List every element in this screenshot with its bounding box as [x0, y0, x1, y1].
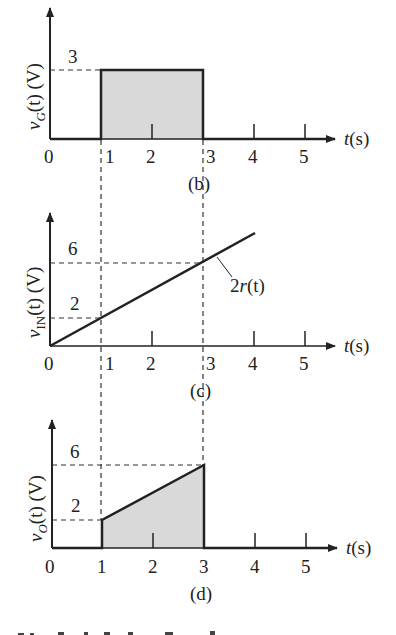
x-tick-3: 3: [206, 353, 216, 374]
panel-d: 6 2 0 1 2 3 4 5 t(s) (d) vO(t) (V): [25, 420, 371, 605]
ramp-annotation: 2r(t): [230, 275, 265, 297]
x-tick-0: 0: [45, 556, 55, 577]
x-axis-label: t(s): [344, 335, 369, 357]
x-tick-4: 4: [250, 556, 260, 577]
y-tick-2: 2: [70, 293, 80, 314]
x-tick-3: 3: [199, 556, 209, 577]
annotation-leader: [217, 257, 232, 277]
panel-caption: (d): [190, 583, 212, 605]
x-tick-2: 2: [146, 146, 156, 167]
panel-b: 3 0 1 2 3 4 5 t(s) (b) vG(t) (V): [23, 8, 369, 195]
y-tick-2: 2: [71, 495, 81, 516]
x-tick-0: 0: [44, 353, 54, 374]
y-tick-3: 3: [68, 46, 78, 67]
x-axis-label: t(s): [344, 128, 369, 150]
x-tick-4: 4: [248, 353, 258, 374]
x-tick-2: 2: [148, 556, 158, 577]
panel-caption: (b): [188, 173, 210, 195]
x-tick-1: 1: [105, 353, 115, 374]
figure: 3 0 1 2 3 4 5 t(s) (b) vG(t) (V) 6 2 2r(…: [0, 0, 396, 635]
x-tick-4: 4: [248, 146, 258, 167]
panel-caption: (c): [190, 380, 211, 402]
x-tick-5: 5: [299, 353, 309, 374]
x-axis-label: t(s): [346, 537, 371, 559]
x-tick-0: 0: [44, 146, 54, 167]
x-tick-5: 5: [301, 556, 311, 577]
y-tick-6: 6: [68, 238, 78, 259]
y-axis-label: vO(t) (V): [25, 475, 50, 542]
x-tick-5: 5: [299, 146, 309, 167]
x-tick-2: 2: [146, 353, 156, 374]
x-tick-1: 1: [97, 556, 107, 577]
y-axis-label: vG(t) (V): [23, 63, 48, 130]
y-tick-6: 6: [70, 441, 80, 462]
cropped-text-fragment: [18, 631, 215, 635]
panel-c: 6 2 2r(t) 0 1 2 3 4 5 t(s) (c) vIN(t) (V…: [23, 213, 369, 402]
x-tick-1: 1: [105, 146, 115, 167]
x-tick-3: 3: [206, 146, 216, 167]
y-axis-label: vIN(t) (V): [23, 267, 48, 338]
ramp-line: [50, 233, 255, 346]
